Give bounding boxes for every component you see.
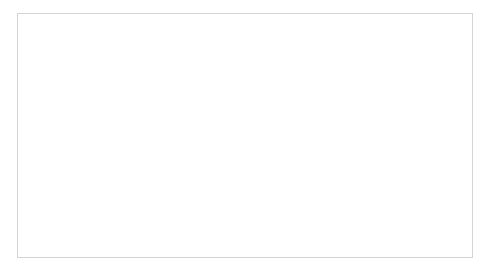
- figure-border: [17, 13, 473, 258]
- chart-figure: Communication Bandwidth -- Alltoall, 8 b…: [0, 0, 490, 273]
